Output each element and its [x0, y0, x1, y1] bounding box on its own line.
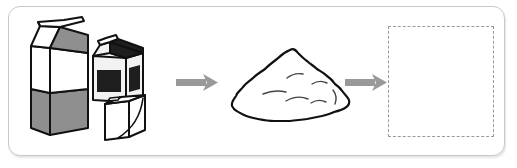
large-carton-body-side-upper [31, 46, 50, 93]
empty-dropzone[interactable] [388, 26, 494, 137]
small-carton-front [105, 101, 129, 140]
pulp-pile [232, 49, 349, 121]
small-carton-tab [108, 97, 120, 101]
medium-carton [93, 35, 143, 102]
arrow-1-shaft [176, 79, 206, 86]
arrow-1 [176, 74, 218, 91]
diagram-stage [0, 0, 517, 168]
small-carton [105, 95, 145, 140]
arrow-2 [345, 74, 387, 91]
pulp-pile-outline [232, 49, 349, 121]
large-carton-body-front-lower [50, 89, 88, 135]
large-carton-spout-fin [38, 17, 84, 27]
medium-carton-panel-left [97, 70, 121, 92]
milk-cartons-group [31, 17, 145, 140]
large-carton-body-front-upper [50, 48, 88, 93]
large-carton-body-side-lower [31, 89, 50, 135]
medium-carton-panel-right [129, 65, 140, 92]
large-carton [31, 17, 88, 135]
arrow-2-shaft [345, 79, 375, 86]
